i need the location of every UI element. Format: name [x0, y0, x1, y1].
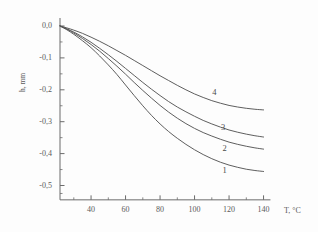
- y-tick-label-5: -0,5: [18, 181, 52, 190]
- x-tick-label-1: 60: [112, 205, 140, 214]
- y-tick-label-4: -0,4: [18, 149, 52, 158]
- chart-figure: h, mm T, °C 0,0-0,1-0,2-0,3-0,4-0,5 4060…: [0, 0, 318, 232]
- curve-3: [60, 26, 264, 137]
- x-tick-label-4: 120: [215, 205, 243, 214]
- curve-label-3: 3: [221, 122, 225, 132]
- x-axis-title: T, °C: [284, 206, 301, 215]
- x-tick-label-2: 80: [146, 205, 174, 214]
- data-curves: [60, 26, 264, 171]
- x-tick-label-5: 140: [250, 205, 278, 214]
- x-tick-label-0: 40: [77, 205, 105, 214]
- y-tick-label-1: -0,1: [18, 53, 52, 62]
- curve-label-4: 4: [212, 87, 216, 97]
- curve-1: [60, 26, 264, 171]
- x-tick-label-3: 100: [181, 205, 209, 214]
- y-tick-label-2: -0,2: [18, 85, 52, 94]
- y-tick-label-3: -0,3: [18, 117, 52, 126]
- y-axis-title: h, mm: [18, 63, 27, 103]
- curve-label-1: 1: [223, 165, 227, 175]
- curve-label-2: 2: [223, 143, 227, 153]
- y-tick-label-0: 0,0: [18, 21, 52, 30]
